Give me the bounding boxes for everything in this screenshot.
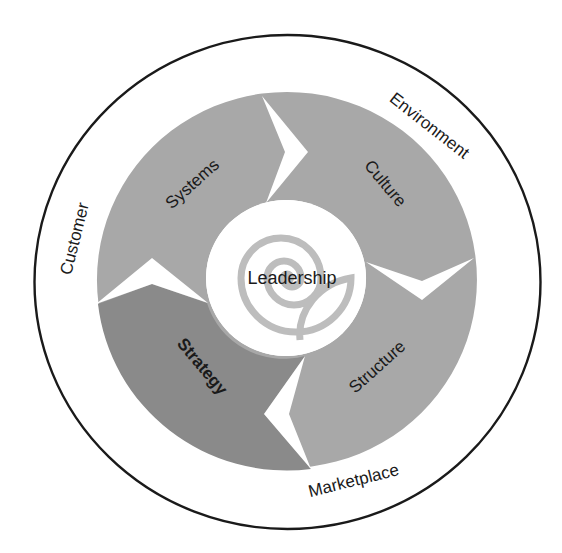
diagram: Leadership Systems Culture Structure Str… [0,0,562,553]
center-label-leadership: Leadership [247,268,336,288]
